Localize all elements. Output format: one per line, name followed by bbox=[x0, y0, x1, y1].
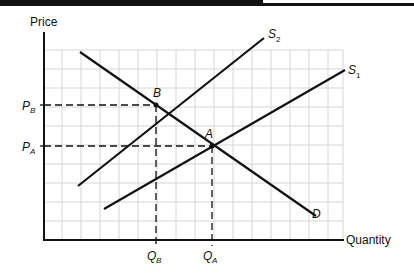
point-b-marker bbox=[154, 103, 159, 108]
quantity-qa-label: Q A bbox=[203, 249, 217, 265]
s1-label: S 1 bbox=[348, 63, 361, 80]
supply-demand-diagram: Price Quantity B A D S 2 S 1 P B P A Q B… bbox=[0, 0, 414, 277]
price-pb-label: P B bbox=[22, 99, 36, 115]
demand-label: D bbox=[312, 207, 321, 221]
grid bbox=[43, 50, 343, 240]
svg-text:B: B bbox=[30, 106, 36, 115]
point-b-label: B bbox=[153, 86, 161, 100]
svg-text:Q: Q bbox=[147, 249, 156, 263]
svg-text:S: S bbox=[348, 63, 356, 77]
point-a-marker bbox=[210, 144, 215, 149]
svg-text:P: P bbox=[22, 140, 30, 154]
svg-text:2: 2 bbox=[276, 35, 281, 44]
svg-text:A: A bbox=[29, 147, 35, 156]
quantity-qb-label: Q B bbox=[147, 249, 162, 265]
svg-text:S: S bbox=[268, 27, 276, 41]
svg-text:Q: Q bbox=[203, 249, 212, 263]
s2-label: S 2 bbox=[268, 27, 281, 44]
svg-text:B: B bbox=[156, 256, 162, 265]
svg-text:P: P bbox=[22, 99, 30, 113]
demand-curve bbox=[80, 52, 316, 216]
y-axis-label: Price bbox=[30, 15, 58, 29]
x-axis-label: Quantity bbox=[346, 233, 391, 247]
svg-text:1: 1 bbox=[356, 71, 361, 80]
svg-text:A: A bbox=[211, 256, 217, 265]
point-a-label: A bbox=[204, 127, 213, 141]
price-pa-label: P A bbox=[22, 140, 35, 156]
